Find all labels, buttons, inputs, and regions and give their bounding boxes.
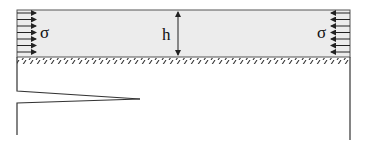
diagram-canvas: σ σ h bbox=[0, 0, 365, 143]
left-wall-lower bbox=[17, 99, 140, 135]
sigma-right-label: σ bbox=[317, 23, 326, 42]
sigma-left-label: σ bbox=[40, 23, 49, 42]
interface-hatching bbox=[17, 58, 350, 64]
substrate-outline bbox=[17, 57, 350, 140]
thickness-label: h bbox=[162, 25, 171, 44]
film-layer bbox=[17, 10, 350, 57]
